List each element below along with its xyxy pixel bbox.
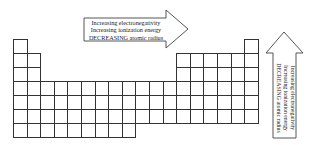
trend-line-2: Increasing ionization energy (282, 59, 289, 137)
vertical-arrow-label: Increasing electronegativity Increasing … (274, 58, 296, 136)
trend-line-1: Increasing electronegativity (289, 59, 296, 137)
vertical-arrow-icon (0, 0, 319, 145)
trend-line-3: DECREASING atomic radius (276, 59, 283, 137)
periodic-table-diagram: Increasing electronegativity Increasing … (0, 0, 319, 145)
